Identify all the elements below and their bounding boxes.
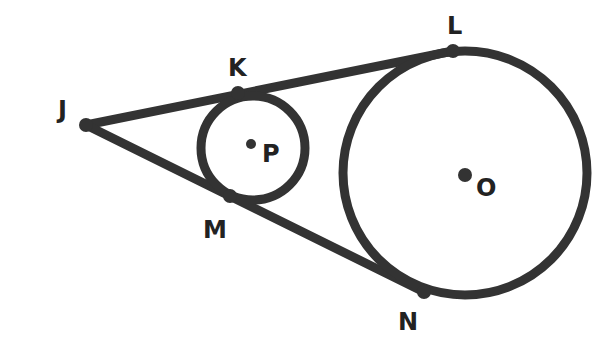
center-O [458, 168, 472, 182]
point-L [446, 44, 460, 58]
center-P [246, 139, 256, 149]
label-N: N [398, 308, 418, 336]
label-P: P [262, 140, 280, 168]
point-K [231, 86, 245, 100]
label-O: O [476, 174, 496, 202]
label-M: M [203, 216, 227, 244]
label-L: L [447, 12, 462, 40]
tangent-line-JL [86, 51, 453, 125]
geometry-diagram: J K L M N P O [0, 0, 607, 347]
point-M [223, 189, 237, 203]
label-J: J [56, 96, 67, 124]
point-N [417, 285, 431, 299]
tangent-line-JN [86, 125, 424, 292]
point-J [79, 118, 93, 132]
label-K: K [228, 54, 248, 82]
